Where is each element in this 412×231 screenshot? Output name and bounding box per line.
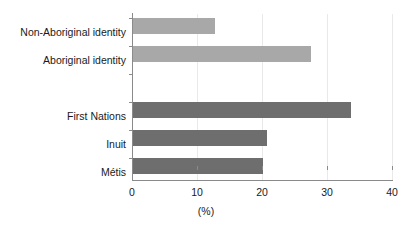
x-tick-label-0: 0 [117, 186, 147, 198]
category-label-aboriginal-identity: Aboriginal identity [43, 54, 126, 66]
x-axis-line [132, 180, 393, 181]
x-tick-10 [197, 166, 198, 170]
plot-area [132, 14, 392, 180]
x-tick-30 [327, 166, 328, 170]
x-tick-0 [132, 166, 133, 170]
x-tick-label-20: 20 [247, 186, 277, 198]
x-tick-label-40: 40 [377, 186, 407, 198]
x-tick-label-30: 30 [312, 186, 342, 198]
category-label-metis: Métis [101, 166, 126, 178]
bar-aboriginal-identity [132, 46, 311, 62]
gridline-30 [327, 14, 328, 180]
category-label-inuit: Inuit [106, 138, 126, 150]
category-label-non-aboriginal-identity: Non-Aboriginal identity [20, 26, 126, 38]
x-axis-title: (%) [0, 205, 412, 217]
x-tick-40 [392, 166, 393, 170]
gridline-40 [392, 14, 393, 180]
category-label-first-nations: First Nations [67, 110, 126, 122]
x-tick-20 [262, 166, 263, 170]
bar-inuit [132, 130, 267, 146]
gridline-10 [197, 14, 198, 180]
x-tick-label-10: 10 [182, 186, 212, 198]
bar-chart: Non-Aboriginal identity Aboriginal ident… [0, 0, 412, 231]
gridline-20 [262, 14, 263, 180]
category-axis-labels: Non-Aboriginal identity Aboriginal ident… [0, 14, 126, 180]
bar-first-nations [132, 102, 351, 118]
y-axis-line [132, 13, 133, 180]
bar-non-aboriginal-identity [132, 18, 215, 34]
